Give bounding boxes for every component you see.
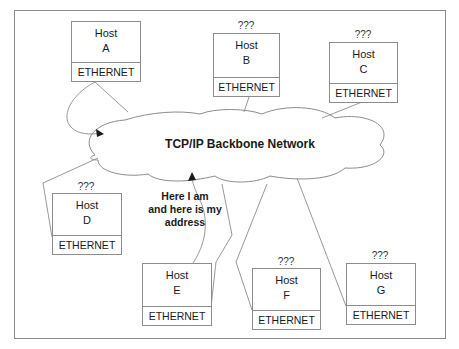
host-f: Host F ETHERNET [252, 268, 321, 330]
ethernet-interface: ETHERNET [143, 306, 211, 325]
host-b: Host B ETHERNET [213, 33, 280, 97]
callout-line-3: address [140, 216, 230, 229]
ethernet-interface: ETHERNET [72, 62, 140, 81]
host-g: Host G ETHERNET [346, 263, 416, 325]
unknown-address-marker: ??? [66, 181, 106, 193]
ethernet-interface: ETHERNET [347, 305, 415, 324]
unknown-address-marker: ??? [226, 20, 266, 32]
host-c: Host C ETHERNET [329, 42, 398, 103]
host-e: Host E ETHERNET [142, 263, 212, 326]
ethernet-interface: ETHERNET [214, 77, 279, 96]
host-label: Host [143, 269, 211, 282]
callout-line-1: Here I am [140, 190, 230, 203]
announcement-callout: Here I am and here is my address [140, 190, 230, 229]
ethernet-interface: ETHERNET [330, 83, 397, 102]
callout-line-2: and here is my [140, 203, 230, 216]
host-id: E [143, 284, 211, 297]
host-a: Host A ETHERNET [71, 21, 141, 82]
host-label: Host [253, 274, 320, 287]
host-label: Host [53, 199, 121, 212]
host-label: Host [330, 48, 397, 61]
unknown-address-marker: ??? [343, 29, 383, 41]
host-id: B [214, 54, 279, 67]
host-label: Host [214, 39, 279, 52]
ethernet-interface: ETHERNET [53, 235, 121, 254]
host-id: D [53, 214, 121, 227]
host-id: C [330, 63, 397, 76]
host-id: F [253, 289, 320, 302]
ethernet-interface: ETHERNET [253, 310, 320, 329]
host-label: Host [72, 27, 140, 40]
unknown-address-marker: ??? [266, 256, 306, 268]
host-label: Host [347, 269, 415, 282]
unknown-address-marker: ??? [360, 250, 400, 262]
backbone-network-label: TCP/IP Backbone Network [150, 137, 330, 151]
host-d: Host D ETHERNET [52, 193, 122, 255]
host-id: G [347, 284, 415, 297]
host-id: A [72, 42, 140, 55]
